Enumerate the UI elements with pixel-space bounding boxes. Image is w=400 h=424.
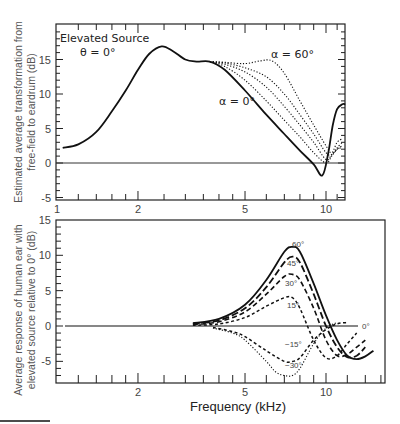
bottom-series-label: 15° (287, 301, 299, 310)
bottom-series-label: 0° (362, 322, 370, 331)
top-x-tick-label: 2 (135, 203, 141, 215)
bottom-axis-ticks (56, 227, 381, 383)
top-y-tick-label: 10 (39, 88, 51, 100)
top-x-tick-label: 1 (54, 203, 60, 215)
top-axis-tick-labels: 12510151050-5 (39, 54, 332, 216)
bottom-y-tick-label: 5 (45, 285, 51, 297)
bottom-series-line (213, 323, 337, 377)
top-y-axis-label-line1: Estimated average transformation from (12, 21, 24, 203)
bottom-x-tick-label: 2 (135, 386, 141, 398)
top-chart-panel: 12510151050-5 Elevated Source θ = 0° α =… (12, 21, 345, 215)
top-y-tick-label: 0 (45, 157, 51, 169)
bottom-series-labels: 60°45°30°15°0°−15°−30° (285, 240, 370, 370)
bottom-x-tick-label: 5 (242, 386, 248, 398)
top-y-axis-label-line2: free-field to eardrum (dB) (25, 53, 37, 170)
bottom-plot-frame (56, 220, 385, 383)
bottom-y-tick-label: 10 (39, 249, 51, 261)
bottom-chart-panel: 2510151050-5 60°45°30°15°0°−15°−30° Freq… (12, 214, 385, 414)
bottom-series-label: 60° (292, 240, 304, 249)
bottom-y-axis-label-line2: elevated source relative to 0° (dB) (25, 231, 37, 389)
bottom-x-axis-label: Frequency (kHz) (190, 399, 286, 414)
top-annotation-theta: θ = 0° (80, 46, 115, 59)
bottom-series-label: −15° (285, 340, 302, 349)
top-series-line (210, 62, 342, 160)
top-y-tick-label: 5 (45, 123, 51, 135)
figure: 12510151050-5 Elevated Source θ = 0° α =… (0, 0, 400, 424)
bottom-y-tick-label: 0 (45, 320, 51, 332)
top-y-tick-label: -5 (41, 192, 51, 204)
bottom-series-label: −30° (285, 361, 302, 370)
top-x-tick-label: 5 (242, 203, 248, 215)
bottom-series-label: 45° (287, 259, 299, 268)
bottom-y-tick-label: -5 (41, 355, 51, 367)
top-x-tick-label: 10 (320, 203, 332, 215)
top-series-group (63, 46, 346, 175)
top-series-line (63, 46, 346, 175)
bottom-series-group (193, 247, 374, 376)
top-series-line (210, 62, 342, 163)
top-annotation-alpha60: α = 60° (271, 48, 314, 61)
top-annotation-title: Elevated Source (60, 32, 150, 45)
top-annotation-alpha0: α = 0° (219, 95, 255, 108)
bottom-y-axis-label-line1: Average response of human ear with (12, 224, 24, 396)
bottom-series-label: 30° (285, 279, 297, 288)
top-y-tick-label: 15 (39, 54, 51, 66)
bottom-x-tick-label: 10 (320, 386, 332, 398)
bottom-y-tick-label: 15 (39, 214, 51, 226)
